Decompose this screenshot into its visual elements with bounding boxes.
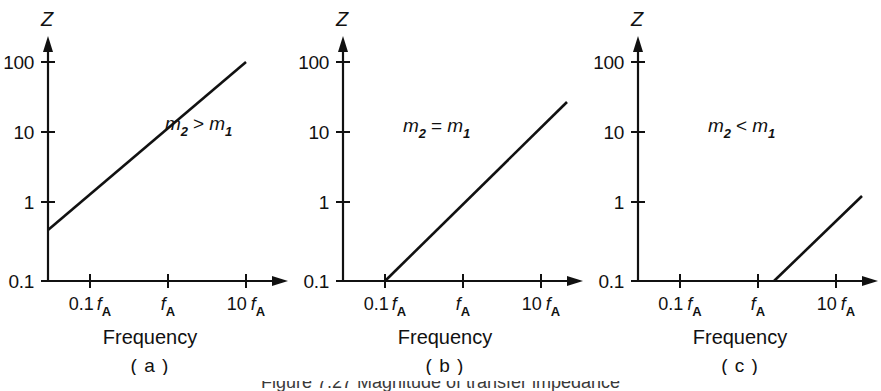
x-tick-prefix: 0.1 <box>364 294 389 314</box>
panel-letter-c: ( c ) <box>721 355 759 375</box>
annotation-relation: < <box>736 115 747 136</box>
plot-svg-b: Z 100 10 1 0.1 0.1fA fA 10fA Frequency (… <box>295 0 585 375</box>
plot-panel-c: Z 100 10 1 0.1 0.1fA fA 10fA Frequency (… <box>590 0 880 375</box>
x-axis-arrowhead <box>567 276 583 286</box>
x-tick-prefix: 0.1 <box>658 294 683 314</box>
x-axis-arrowhead <box>272 276 288 286</box>
x-tick-label-fa: fA <box>751 294 766 319</box>
y-axis-arrowhead <box>338 36 348 52</box>
y-tick-label-100: 100 <box>593 52 624 73</box>
y-tick-label-0.1: 0.1 <box>8 271 34 292</box>
annotation-a: m2>m1 <box>165 113 232 139</box>
annotation-sub-right: 1 <box>768 126 775 141</box>
panel-letter-a: ( a ) <box>131 355 170 375</box>
x-tick-prefix: 10 <box>817 294 837 314</box>
annotation-c: m2<m1 <box>708 115 775 141</box>
annotation-sub-right: 1 <box>225 124 232 139</box>
x-tick-label-fa: fA <box>456 294 471 319</box>
figure-caption-text: Figure 7.27 Magnitude of transfer impeda… <box>0 381 881 391</box>
x-axis-label: Frequency <box>398 326 493 348</box>
annotation-m-right: m <box>209 113 225 134</box>
y-tick-label-10: 10 <box>13 122 34 143</box>
x-tick-subscript: A <box>102 304 112 319</box>
panel-letter-b: ( b ) <box>426 355 465 375</box>
plot-panel-a: Z 100 10 1 0.1 0.1fA fA 10fA Frequency (… <box>0 0 290 375</box>
plot-svg-a: Z 100 10 1 0.1 0.1fA fA 10fA Frequency (… <box>0 0 290 375</box>
data-line-a <box>48 62 246 230</box>
y-tick-label-10: 10 <box>603 122 624 143</box>
annotation-m-left: m <box>708 115 724 136</box>
figure-container: Z 100 10 1 0.1 0.1fA fA 10fA Frequency (… <box>0 0 881 391</box>
annotation-relation: = <box>431 115 442 136</box>
annotation-m-left: m <box>403 115 419 136</box>
y-tick-label-1: 1 <box>614 192 624 213</box>
x-tick-prefix: 10 <box>227 294 247 314</box>
x-tick-label-0.1fa: 0.1fA <box>658 294 702 319</box>
x-tick-subscript: A <box>692 304 702 319</box>
y-tick-label-0.1: 0.1 <box>598 271 624 292</box>
y-axis-label: Z <box>40 8 54 30</box>
x-axis-arrowhead <box>862 276 878 286</box>
x-tick-subscript: A <box>756 304 766 319</box>
y-tick-label-100: 100 <box>298 52 329 73</box>
data-line-c <box>774 196 862 281</box>
y-axis-arrowhead <box>43 36 53 52</box>
x-tick-subscript: A <box>166 304 176 319</box>
x-tick-label-10fa: 10fA <box>522 294 561 319</box>
y-axis-label: Z <box>630 8 644 30</box>
x-tick-subscript: A <box>461 304 471 319</box>
annotation-sub-right: 1 <box>463 126 470 141</box>
y-axis-label: Z <box>335 8 349 30</box>
annotation-sub-left: 2 <box>418 126 427 141</box>
y-tick-label-1: 1 <box>24 192 34 213</box>
x-tick-subscript: A <box>397 304 407 319</box>
x-tick-subscript: A <box>551 304 561 319</box>
plot-svg-c: Z 100 10 1 0.1 0.1fA fA 10fA Frequency (… <box>590 0 880 375</box>
annotation-sub-left: 2 <box>723 126 732 141</box>
figure-caption-clipped: Figure 7.27 Magnitude of transfer impeda… <box>0 381 881 391</box>
x-tick-label-10fa: 10fA <box>227 294 266 319</box>
y-tick-label-100: 100 <box>3 52 34 73</box>
x-tick-subscript: A <box>846 304 856 319</box>
annotation-m-right: m <box>752 115 768 136</box>
x-tick-label-fa: fA <box>161 294 176 319</box>
y-tick-label-1: 1 <box>319 192 329 213</box>
y-axis-arrowhead <box>633 36 643 52</box>
plot-panel-b: Z 100 10 1 0.1 0.1fA fA 10fA Frequency (… <box>295 0 585 375</box>
x-axis-label: Frequency <box>103 326 198 348</box>
x-tick-label-10fa: 10fA <box>817 294 856 319</box>
x-tick-prefix: 0.1 <box>69 294 94 314</box>
x-tick-label-0.1fa: 0.1fA <box>364 294 407 319</box>
y-tick-label-0.1: 0.1 <box>303 271 329 292</box>
x-tick-subscript: A <box>256 304 266 319</box>
x-tick-prefix: 10 <box>522 294 542 314</box>
annotation-relation: > <box>193 113 204 134</box>
annotation-b: m2=m1 <box>403 115 470 141</box>
x-axis-label: Frequency <box>693 326 788 348</box>
annotation-m-right: m <box>447 115 463 136</box>
y-tick-label-10: 10 <box>308 122 329 143</box>
annotation-sub-left: 2 <box>180 124 189 139</box>
x-tick-label-0.1fa: 0.1fA <box>69 294 112 319</box>
annotation-m-left: m <box>165 113 181 134</box>
